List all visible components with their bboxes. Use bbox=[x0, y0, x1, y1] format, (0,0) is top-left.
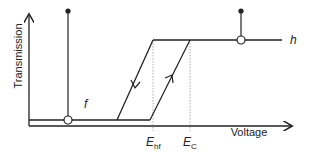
left-branch-line bbox=[117, 40, 153, 120]
x-axis-label: Voltage bbox=[231, 126, 268, 138]
f-marker-circle bbox=[64, 116, 72, 124]
h-marker-circle bbox=[237, 36, 245, 44]
h-curve-label: h bbox=[290, 33, 297, 47]
ec-subscript: C bbox=[191, 142, 197, 151]
hysteresis-diagram: Transmission Voltage f h Ehf EC bbox=[0, 0, 309, 152]
f-marker-dot bbox=[65, 8, 70, 13]
f-curve-label: f bbox=[84, 97, 89, 111]
ec-threshold-label: EC bbox=[183, 135, 197, 151]
y-axis-label: Transmission bbox=[12, 24, 24, 89]
right-branch-line bbox=[150, 40, 190, 120]
ehf-subscript: hf bbox=[154, 142, 161, 151]
ehf-threshold-label: Ehf bbox=[146, 135, 161, 151]
h-marker-dot bbox=[238, 8, 243, 13]
diagram-canvas: Transmission Voltage f h Ehf EC bbox=[0, 0, 309, 152]
